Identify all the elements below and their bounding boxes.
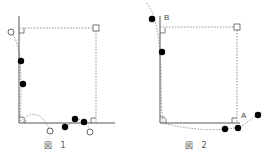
filled-point bbox=[62, 124, 68, 130]
corner-square-marker bbox=[234, 24, 240, 30]
filled-point bbox=[81, 119, 87, 125]
point-label-b: B bbox=[164, 13, 169, 22]
filled-point bbox=[18, 58, 24, 64]
point-label-a: A bbox=[241, 111, 246, 120]
right-angle-mark-top bbox=[160, 28, 165, 33]
open-point bbox=[87, 129, 93, 135]
filled-point bbox=[159, 49, 165, 55]
curve-bottom-dotted bbox=[162, 112, 262, 130]
right-angle-mark-top bbox=[19, 28, 24, 33]
origin-angle-mark bbox=[160, 117, 166, 123]
filled-point bbox=[222, 126, 228, 132]
filled-point bbox=[255, 112, 261, 118]
figure-2-caption: 図 2 bbox=[185, 139, 210, 150]
filled-point bbox=[235, 125, 241, 131]
corner-square-marker bbox=[93, 25, 99, 31]
filled-point bbox=[20, 81, 26, 87]
filled-point bbox=[72, 116, 78, 122]
figure-1 bbox=[8, 16, 115, 135]
right-angle-mark-bottom bbox=[232, 118, 237, 123]
open-point bbox=[8, 29, 14, 35]
diagram-canvas bbox=[0, 0, 272, 157]
open-point bbox=[47, 128, 53, 134]
curve-arc-dotted bbox=[22, 114, 50, 130]
right-angle-mark-bottom bbox=[91, 118, 96, 123]
figure-1-caption: 図 1 bbox=[44, 139, 69, 150]
filled-point bbox=[149, 16, 155, 22]
